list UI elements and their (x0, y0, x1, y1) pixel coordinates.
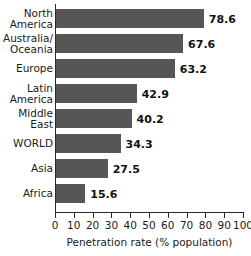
table-row: WORLD 34.3 (0, 131, 251, 156)
x-tick (74, 213, 75, 218)
bar-africa (56, 184, 85, 203)
x-tick-label: 30 (105, 219, 118, 231)
plot-area: North America 78.6 Australia/ Oceania 67… (0, 0, 251, 214)
x-axis-tick-labels: 0 10 20 30 40 50 60 70 80 90 100 (55, 219, 244, 233)
table-row: Asia 27.5 (0, 156, 251, 181)
bar-value-asia: 27.5 (108, 162, 140, 175)
bar-europe (56, 59, 175, 78)
bar-track: 34.3 (56, 134, 244, 153)
x-tick (187, 213, 188, 218)
bar-value-world: 34.3 (121, 137, 153, 150)
category-label-north-america: North America (0, 7, 53, 30)
category-label-latin-america: Latin America (0, 82, 53, 105)
bar-track: 63.2 (56, 59, 244, 78)
bar-rows: North America 78.6 Australia/ Oceania 67… (0, 6, 251, 206)
x-tick-label: 40 (124, 219, 137, 231)
bar-value-africa: 15.6 (85, 187, 117, 200)
table-row: Africa 15.6 (0, 181, 251, 206)
bar-middle-east (56, 109, 132, 128)
x-tick-label: 90 (218, 219, 231, 231)
x-tick-label: 50 (142, 219, 155, 231)
category-label-world: WORLD (0, 138, 53, 150)
x-tick-label: 70 (180, 219, 193, 231)
x-tick (205, 213, 206, 218)
bar-world (56, 134, 121, 153)
bar-track: 15.6 (56, 184, 244, 203)
x-tick-label: 60 (161, 219, 174, 231)
bar-track: 67.6 (56, 34, 244, 53)
bar-track: 27.5 (56, 159, 244, 178)
x-tick-label: 0 (52, 219, 59, 231)
bar-australia-oceania (56, 34, 183, 53)
table-row: Australia/ Oceania 67.6 (0, 31, 251, 56)
x-tick (55, 213, 56, 218)
category-label-asia: Asia (0, 163, 53, 175)
x-tick (149, 213, 150, 218)
x-axis-ticks (55, 213, 244, 218)
x-tick-label: 100 (233, 219, 251, 231)
x-tick (111, 213, 112, 218)
bar-north-america (56, 9, 204, 28)
x-tick-label: 80 (199, 219, 212, 231)
x-tick (243, 213, 244, 218)
table-row: Middle East 40.2 (0, 106, 251, 131)
category-label-middle-east: Middle East (0, 107, 53, 130)
table-row: Latin America 42.9 (0, 81, 251, 106)
bar-value-australia-oceania: 67.6 (183, 37, 215, 50)
x-tick-label: 20 (86, 219, 99, 231)
table-row: North America 78.6 (0, 6, 251, 31)
bar-value-europe: 63.2 (175, 62, 207, 75)
category-label-europe: Europe (0, 63, 53, 75)
y-axis-line (55, 4, 56, 212)
bar-chart: North America 78.6 Australia/ Oceania 67… (0, 0, 251, 256)
bar-track: 42.9 (56, 84, 244, 103)
bar-latin-america (56, 84, 137, 103)
bar-track: 78.6 (56, 9, 244, 28)
bar-value-middle-east: 40.2 (132, 112, 164, 125)
x-tick (168, 213, 169, 218)
category-label-africa: Africa (0, 188, 53, 200)
x-tick (130, 213, 131, 218)
bar-value-north-america: 78.6 (204, 12, 236, 25)
x-tick (224, 213, 225, 218)
x-tick (93, 213, 94, 218)
category-label-australia-oceania: Australia/ Oceania (0, 32, 53, 55)
x-tick-label: 10 (67, 219, 80, 231)
x-axis-title: Penetration rate (% population) (55, 236, 244, 248)
bar-value-latin-america: 42.9 (137, 87, 169, 100)
bar-track: 40.2 (56, 109, 244, 128)
table-row: Europe 63.2 (0, 56, 251, 81)
bar-asia (56, 159, 108, 178)
